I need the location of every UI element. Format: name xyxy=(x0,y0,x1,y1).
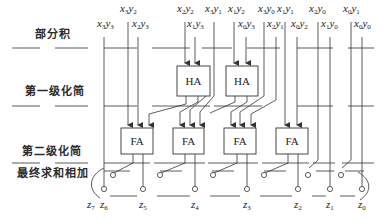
terminal-z3 xyxy=(244,186,249,191)
terminal-z1 xyxy=(327,186,332,191)
partial-product-x1y3: x1y3 xyxy=(187,18,204,33)
full-adder-group: FAFAFAFA xyxy=(121,128,308,154)
carry-terminal xyxy=(338,172,343,177)
partial-product-x1y1: x1y1 xyxy=(277,3,294,18)
output-z0: z0 xyxy=(358,198,366,212)
stage-label-partial-products: 部分积 xyxy=(35,25,71,41)
partial-product-x2y1: x2y1 xyxy=(267,18,284,33)
partial-product-x0y3: x0y3 xyxy=(238,18,255,33)
partial-product-x2y3: x2y3 xyxy=(132,18,149,33)
carry-terminal xyxy=(157,172,162,177)
full-adder-label: FA xyxy=(130,135,143,147)
stage-label-second-reduction: 第二级化简 xyxy=(22,142,82,158)
terminal-z5 xyxy=(140,186,145,191)
half-adder-label: HA xyxy=(186,75,202,87)
output-z1: z1 xyxy=(326,198,334,212)
terminal-z4 xyxy=(192,186,197,191)
terminal-z0 xyxy=(359,186,364,191)
output-z6: z6 xyxy=(100,198,108,212)
multiplier-diagram: HAHA FAFAFAFA 部分积第一级化简第二级化简最终求和相加 x3y3x3… xyxy=(0,0,383,219)
carry-terminal xyxy=(261,172,266,177)
partial-product-x3y3: x3y3 xyxy=(97,18,114,33)
partial-product-x3y0: x3y0 xyxy=(258,3,275,18)
full-adder-label: FA xyxy=(285,135,298,147)
partial-product-x0y0: x0y0 xyxy=(354,18,371,33)
half-adder-label: HA xyxy=(234,75,250,87)
output-z7: z7 xyxy=(87,198,95,212)
partial-product-x0y1: x0y1 xyxy=(343,3,360,18)
half-adder-1: HA xyxy=(177,66,210,96)
full-adder-label: FA xyxy=(182,135,195,147)
full-adder-1: FA xyxy=(121,128,153,154)
stage-label-final-add: 最终求和相加 xyxy=(17,164,89,180)
output-z3: z3 xyxy=(243,198,251,212)
full-adder-label: FA xyxy=(233,135,246,147)
stage-label-first-reduction: 第一级化简 xyxy=(25,82,85,98)
partial-product-x0y2: x0y2 xyxy=(291,18,308,33)
partial-product-x1y2: x1y2 xyxy=(228,3,245,18)
partial-product-x1y0: x1y0 xyxy=(321,18,338,33)
full-adder-4: FA xyxy=(276,128,308,154)
carry-terminal xyxy=(210,172,215,177)
partial-product-x2y2: x2y2 xyxy=(177,3,194,18)
terminal-z6 xyxy=(101,186,106,191)
full-adder-2: FA xyxy=(173,128,204,154)
partial-product-x2y0: x2y0 xyxy=(309,3,326,18)
output-z2: z2 xyxy=(294,198,302,212)
half-adder-group: HAHA xyxy=(177,66,258,96)
output-z5: z5 xyxy=(139,198,147,212)
carry-terminal xyxy=(305,172,310,177)
full-adder-3: FA xyxy=(224,128,256,154)
partial-product-x3y1: x3y1 xyxy=(205,3,222,18)
carry-terminal xyxy=(110,172,115,177)
half-adder-2: HA xyxy=(226,66,258,96)
partial-product-x3y2: x3y2 xyxy=(120,3,137,18)
terminal-z2 xyxy=(295,186,300,191)
output-z4: z4 xyxy=(191,198,199,212)
